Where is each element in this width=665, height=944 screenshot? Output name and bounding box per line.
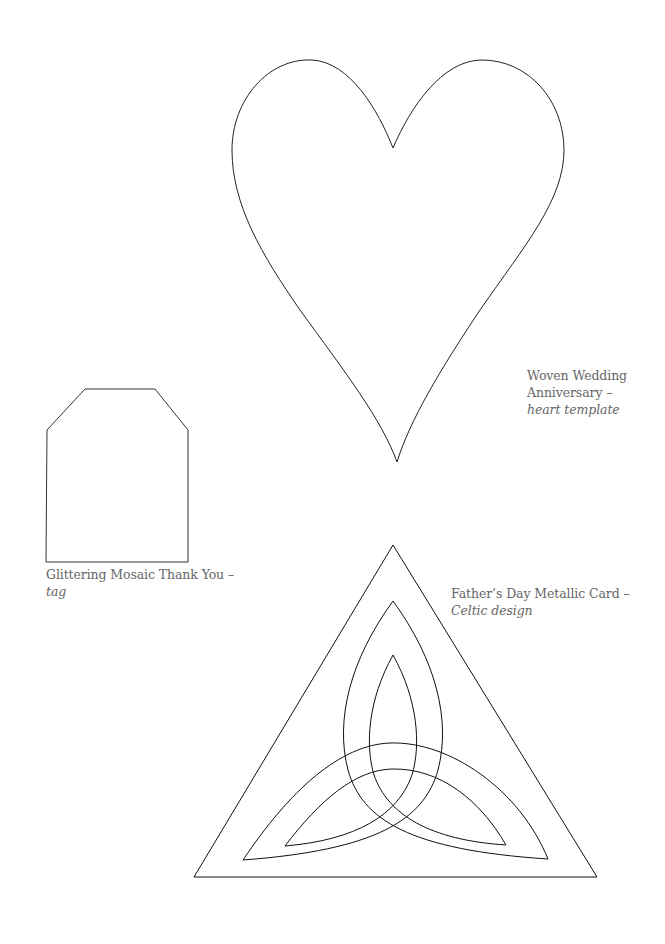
tag-template-title: Glittering Mosaic Thank You – <box>46 566 234 583</box>
celtic-template-subtitle: Celtic design <box>451 602 630 619</box>
celtic-template-caption: Father’s Day Metallic Card – Celtic desi… <box>451 585 630 619</box>
tag-template-subtitle: tag <box>46 583 234 600</box>
heart-template-caption: Woven Wedding Anniversary – heart templa… <box>527 367 665 418</box>
template-page: Woven Wedding Anniversary – heart templa… <box>0 0 665 944</box>
heart-template-title: Woven Wedding Anniversary – <box>527 367 665 401</box>
heart-template-subtitle: heart template <box>527 401 665 418</box>
heart-outline-icon <box>232 60 564 462</box>
template-shapes <box>0 0 665 944</box>
tag-outline-icon <box>46 389 188 562</box>
tag-template-caption: Glittering Mosaic Thank You – tag <box>46 566 234 600</box>
celtic-template-title: Father’s Day Metallic Card – <box>451 585 630 602</box>
